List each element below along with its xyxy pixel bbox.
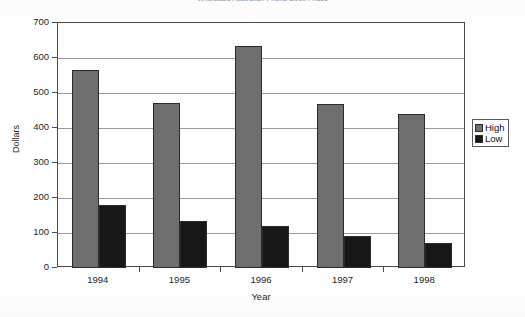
bar-low-1996 <box>262 226 289 268</box>
x-tick-mark-1 <box>139 267 140 272</box>
gray-swatch-icon <box>475 124 483 132</box>
x-tick-mark-2 <box>220 267 221 272</box>
chart-legend: HighLow <box>472 119 509 147</box>
bar-low-1994 <box>99 205 126 268</box>
legend-label-low: Low <box>485 134 502 144</box>
y-tick-mark-0 <box>52 267 57 268</box>
bar-chart: Wholesale Australian Phone Book Prices D… <box>0 0 525 317</box>
bar-high-1995 <box>153 103 180 268</box>
bar-low-1998 <box>425 243 452 268</box>
x-tick-mark-3 <box>302 267 303 272</box>
bars-layer <box>58 23 464 266</box>
bar-high-1997 <box>317 104 344 268</box>
plot-area <box>57 22 465 267</box>
bar-high-1996 <box>235 46 262 268</box>
bar-high-1998 <box>398 114 425 268</box>
legend-label-high: High <box>485 123 505 133</box>
black-swatch-icon <box>475 135 483 143</box>
x-axis-title: Year <box>57 291 465 302</box>
bar-low-1997 <box>344 236 371 268</box>
x-tick-label-1997: 1997 <box>313 274 373 285</box>
x-tick-mark-4 <box>383 267 384 272</box>
x-tick-label-1998: 1998 <box>394 274 454 285</box>
legend-item-low[interactable]: Low <box>475 133 505 144</box>
x-tick-label-1994: 1994 <box>68 274 128 285</box>
bar-low-1995 <box>180 221 207 268</box>
legend-item-high[interactable]: High <box>475 122 505 133</box>
x-tick-label-1995: 1995 <box>149 274 209 285</box>
x-tick-label-1996: 1996 <box>231 274 291 285</box>
bar-high-1994 <box>72 70 99 268</box>
